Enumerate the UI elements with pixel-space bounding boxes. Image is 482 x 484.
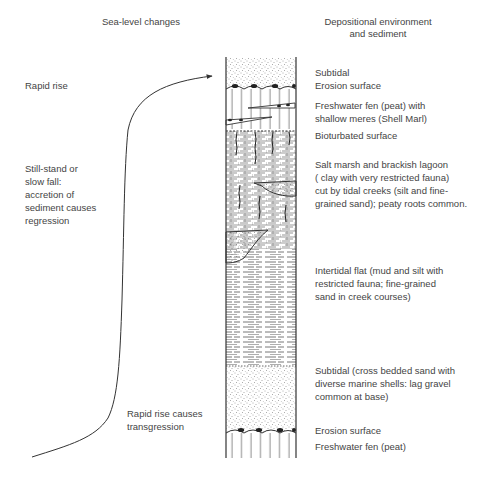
layer-subtidal-sand-top <box>226 57 296 88</box>
layer-subtidal-sand-bottom <box>226 366 296 432</box>
sediment-column <box>226 57 296 458</box>
layer-freshwater-peat-bottom <box>226 432 296 458</box>
stratigraphic-diagram <box>0 0 482 484</box>
sea-level-curve <box>32 76 212 457</box>
layer-intertidal-mud <box>226 249 296 366</box>
